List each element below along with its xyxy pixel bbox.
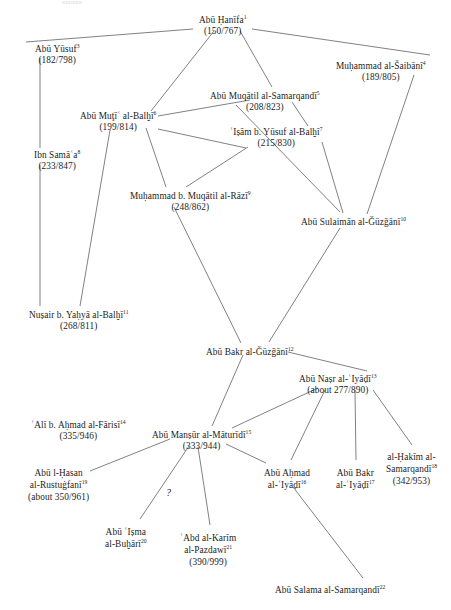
uncertain-link-question-mark: ?	[166, 487, 171, 498]
node-footnote-ali-b-ahmad-al-farisi: 14	[120, 419, 126, 425]
node-footnote-abu-nasr-al-iyadi: 13	[371, 373, 377, 379]
node-name-abd-al-karim-al-pazdawi: ʿAbd al-Karīmal-Pazdawī21	[180, 533, 236, 557]
node-name-abu-salama-al-samarqandi: Abū Salama al-Samarqandī22	[275, 584, 385, 596]
node-footnote-abd-al-karim-al-pazdawi: 21	[227, 544, 233, 550]
node-date-abu-l-hasan-al-rustugfani: (about 350/961)	[28, 492, 89, 503]
node-name-abu-sulaiman: Abū Sulaimān al-Ǧūzǧānī10	[301, 216, 406, 228]
node-name-ali-b-ahmad-al-farisi: ʿAlī b. Aḥmad al-Fārisī14	[31, 419, 126, 431]
node-footnote-abu-bakr-al-guzgani: 12	[288, 346, 294, 352]
node-name-abu-muqatil: Abū Muqātil al-Samarqandī5	[210, 90, 320, 102]
node-footnote-abu-isma-al-buhari: 20	[141, 538, 147, 544]
node-footnote-abu-l-hasan-al-rustugfani: 19	[82, 479, 88, 485]
node-name-muhammad-al-saibani: Muḥammad al-Šaibānī4	[336, 60, 426, 72]
node-abu-l-hasan-al-rustugfani[interactable]: Abū l-Ḥasanal-Rustuġfanī19(about 350/961…	[28, 468, 89, 503]
node-date-abd-al-karim-al-pazdawi: (390/999)	[180, 557, 236, 568]
node-abu-salama-al-samarqandi[interactable]: Abū Salama al-Samarqandī22	[275, 584, 385, 596]
node-abu-sulaiman[interactable]: Abū Sulaimān al-Ǧūzǧānī10	[301, 216, 406, 228]
node-name-nusair-b-yahya: Nuṣair b. Yaḥyā al-Balḫī11	[29, 309, 128, 321]
node-abu-isma-al-buhari[interactable]: Abū ʿIṣmaal-Buḫārī20	[105, 527, 147, 551]
node-muhammad-b-muqatil[interactable]: Muḥammad b. Muqātil al-Rāzī9(248/862)	[130, 190, 251, 214]
node-footnote-abu-salama-al-samarqandi: 22	[380, 584, 386, 590]
node-name-abu-bakr-al-guzgani: Abū Bakr al-Ǧūzǧānī12	[206, 346, 294, 358]
node-abu-yusuf[interactable]: Abū Yūsuf3(182/798)	[35, 43, 79, 67]
node-footnote-abu-muqatil: 5	[317, 90, 320, 96]
node-footnote-abu-bakr-al-iyadi: 17	[369, 479, 375, 485]
node-abu-bakr-al-iyadi[interactable]: Abū Bakral-ʿIyāḍī17	[336, 468, 375, 492]
node-date-ali-b-ahmad-al-farisi: (335/946)	[31, 431, 126, 442]
node-date-muhammad-b-muqatil: (248/862)	[130, 202, 251, 213]
node-footnote-nusair-b-yahya: 11	[123, 309, 128, 315]
node-al-hakim-al-samarqandi[interactable]: al-Ḥakīm al-Samarqandī18(342/953)	[386, 452, 437, 487]
node-name-abu-l-hasan-al-rustugfani: Abū l-Ḥasanal-Rustuġfanī19	[28, 468, 89, 492]
node-date-abu-nasr-al-iyadi: (about 277/890)	[299, 385, 377, 396]
node-footnote-muhammad-al-saibani: 4	[423, 60, 426, 66]
node-date-abu-mansur-al-maturidi: (333/944)	[152, 441, 251, 452]
node-name-abu-bakr-al-iyadi: Abū Bakral-ʿIyāḍī17	[336, 468, 375, 492]
node-abu-ahmad-al-iyadi[interactable]: Abū Aḥmadal-ʿIyāḍī16	[264, 468, 310, 492]
node-abu-muqatil[interactable]: Abū Muqātil al-Samarqandī5(208/823)	[210, 90, 320, 114]
node-footnote-abu-yusuf: 3	[77, 43, 80, 49]
node-abu-mansur-al-maturidi[interactable]: Abū Manṣūr al-Māturīdī15(333/944)	[152, 429, 251, 453]
node-footnote-ibn-samaa: 8	[78, 149, 81, 155]
node-abu-hanifa[interactable]: Abū Ḥanīfa1(150/767)	[199, 14, 246, 38]
node-nusair-b-yahya[interactable]: Nuṣair b. Yaḥyā al-Balḫī11(268/811)	[29, 309, 128, 333]
node-date-ibn-samaa: (233/847)	[34, 161, 80, 172]
node-date-al-hakim-al-samarqandi: (342/953)	[386, 476, 437, 487]
node-date-abu-hanifa: (150/767)	[199, 26, 246, 37]
node-name-abu-yusuf: Abū Yūsuf3	[35, 43, 79, 55]
node-abu-muti[interactable]: Abū Muţīʿ al-Balḫī6(199/814)	[80, 110, 156, 134]
node-muhammad-al-saibani[interactable]: Muḥammad al-Šaibānī4(189/805)	[336, 60, 426, 84]
node-name-abu-ahmad-al-iyadi: Abū Aḥmadal-ʿIyāḍī16	[264, 468, 310, 492]
node-footnote-abu-hanifa: 1	[244, 14, 247, 20]
node-footnote-muhammad-b-muqatil: 9	[248, 190, 251, 196]
node-date-nusair-b-yahya: (268/811)	[29, 321, 128, 332]
node-abu-bakr-al-guzgani[interactable]: Abū Bakr al-Ǧūzǧānī12	[206, 346, 294, 358]
node-name-abu-nasr-al-iyadi: Abū Naṣr al-ʿIyāḍī13	[299, 373, 377, 385]
node-name-abu-hanifa: Abū Ḥanīfa1	[199, 14, 246, 26]
node-name-isam-b-yusuf: ʿIṣām b. Yūsuf al-Balḫī7	[230, 126, 323, 138]
node-date-muhammad-al-saibani: (189/805)	[336, 72, 426, 83]
node-name-abu-muti: Abū Muţīʿ al-Balḫī6	[80, 110, 156, 122]
node-abu-nasr-al-iyadi[interactable]: Abū Naṣr al-ʿIyāḍī13(about 277/890)	[299, 373, 377, 397]
node-date-abu-muti: (199/814)	[80, 122, 156, 133]
node-name-muhammad-b-muqatil: Muḥammad b. Muqātil al-Rāzī9	[130, 190, 251, 202]
node-date-abu-muqatil: (208/823)	[210, 102, 320, 113]
node-date-isam-b-yusuf: (215/830)	[230, 138, 323, 149]
node-layer: Abū Ḥanīfa1(150/767)Abū Yūsuf3(182/798)M…	[0, 0, 451, 610]
node-name-al-hakim-al-samarqandi: al-Ḥakīm al-Samarqandī18	[386, 452, 437, 476]
node-name-ibn-samaa: Ibn Samāʿa8	[34, 149, 80, 161]
node-ali-b-ahmad-al-farisi[interactable]: ʿAlī b. Aḥmad al-Fārisī14(335/946)	[31, 419, 126, 443]
node-footnote-abu-muti: 6	[154, 110, 157, 116]
node-name-abu-isma-al-buhari: Abū ʿIṣmaal-Buḫārī20	[105, 527, 147, 551]
node-abd-al-karim-al-pazdawi[interactable]: ʿAbd al-Karīmal-Pazdawī21(390/999)	[180, 533, 236, 568]
node-footnote-isam-b-yusuf: 7	[320, 126, 323, 132]
node-isam-b-yusuf[interactable]: ʿIṣām b. Yūsuf al-Balḫī7(215/830)	[230, 126, 323, 150]
node-ibn-samaa[interactable]: Ibn Samāʿa8(233/847)	[34, 149, 80, 173]
lineage-diagram: nnnnnn Abū Ḥanīfa1(150/767)Abū Yūsuf3(18…	[0, 0, 451, 610]
node-footnote-al-hakim-al-samarqandi: 18	[431, 463, 437, 469]
node-footnote-abu-ahmad-al-iyadi: 16	[301, 479, 307, 485]
node-name-abu-mansur-al-maturidi: Abū Manṣūr al-Māturīdī15	[152, 429, 251, 441]
node-date-abu-yusuf: (182/798)	[35, 55, 79, 66]
node-footnote-abu-sulaiman: 10	[400, 216, 406, 222]
node-footnote-abu-mansur-al-maturidi: 15	[246, 429, 252, 435]
